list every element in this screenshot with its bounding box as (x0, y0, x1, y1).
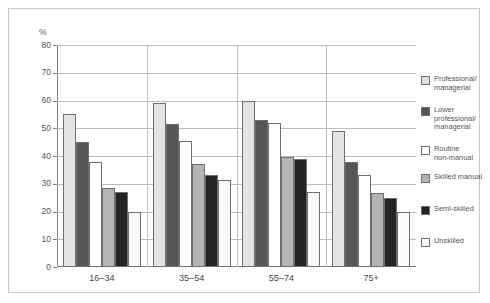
bar (332, 131, 345, 267)
bar (205, 175, 218, 267)
y-axis-unit-label: % (39, 27, 47, 37)
bar (128, 212, 141, 268)
chart-frame: % 01020304050607080 16–3435–5455–7475+ P… (8, 8, 480, 293)
y-axis-tick-mark (53, 212, 57, 213)
legend-swatch-icon (421, 76, 430, 85)
bar (384, 198, 397, 267)
y-axis-tick-label: 20 (29, 207, 51, 216)
y-axis-tick-label: 70 (29, 68, 51, 77)
legend-swatch-icon (421, 238, 430, 247)
y-axis-tick-mark (53, 156, 57, 157)
bar (76, 142, 89, 267)
y-axis-tick-label: 30 (29, 179, 51, 188)
bar (166, 124, 179, 267)
x-axis-tick-label: 75+ (326, 273, 416, 283)
group-separator (147, 45, 148, 267)
bar (242, 101, 255, 268)
bar (153, 103, 166, 267)
legend-swatch-icon (421, 174, 430, 183)
bar (307, 192, 320, 267)
bar (63, 114, 76, 267)
x-axis-tick-label: 16–34 (57, 273, 147, 283)
bar (397, 212, 410, 268)
bar (255, 120, 268, 267)
legend-swatch-icon (421, 146, 430, 155)
legend-item-label: Semi-skilled (434, 205, 490, 214)
y-axis-tick-label: 10 (29, 235, 51, 244)
bar (371, 193, 384, 267)
legend-item-label: Lower professional/ managerial (434, 106, 490, 132)
bar (102, 188, 115, 267)
y-axis-tick-label: 80 (29, 41, 51, 50)
bar (218, 180, 231, 267)
y-axis-tick-mark (53, 267, 57, 268)
y-axis-tick-mark (53, 128, 57, 129)
group-separator (237, 45, 238, 267)
legend-swatch-icon (421, 107, 430, 116)
bar (294, 159, 307, 267)
y-axis-tick-label: 0 (29, 263, 51, 272)
x-axis-tick-label: 55–74 (236, 273, 326, 283)
bar (192, 164, 205, 267)
bar (89, 162, 102, 267)
bar-chart-figure: % 01020304050607080 16–3435–5455–7475+ P… (0, 0, 490, 303)
bar (268, 123, 281, 267)
legend-item-label: Unskilled (434, 237, 490, 246)
bar (281, 157, 294, 267)
y-axis-tick-label: 60 (29, 96, 51, 105)
y-axis-tick-label: 40 (29, 152, 51, 161)
y-axis-tick-mark (53, 101, 57, 102)
bar (345, 162, 358, 267)
bar (115, 192, 128, 267)
y-axis-tick-mark (53, 45, 57, 46)
y-axis-tick-mark (53, 239, 57, 240)
legend-item-label: Professional/ managerial (434, 75, 490, 92)
bar (179, 141, 192, 267)
y-axis-tick-mark (53, 184, 57, 185)
y-axis-tick-mark (53, 73, 57, 74)
legend-item-label: Routine non-manual (434, 145, 490, 162)
legend-swatch-icon (421, 206, 430, 215)
legend-item-label: Skilled manual (434, 173, 490, 182)
y-axis-tick-label: 50 (29, 124, 51, 133)
bar (358, 175, 371, 267)
x-axis-tick-label: 35–54 (147, 273, 237, 283)
group-separator (326, 45, 327, 267)
plot-area: 01020304050607080 16–3435–5455–7475+ (57, 45, 416, 267)
